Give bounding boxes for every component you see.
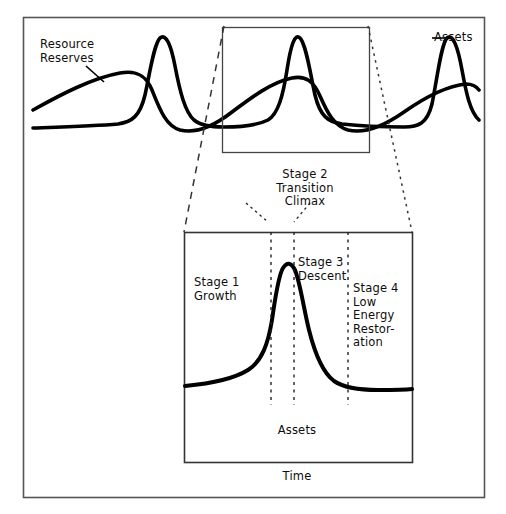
zoom-selection-box[interactable] — [223, 28, 370, 153]
stage2-label: Stage 2 Transition Climax — [246, 168, 364, 209]
resource-reserves-curve — [33, 72, 479, 131]
assets-label: Assets — [434, 31, 473, 45]
detail-assets-axis-label: Assets — [238, 424, 356, 438]
assets-curve — [33, 37, 479, 128]
detail-time-axis-label: Time — [238, 470, 356, 484]
stage4-label: Stage 4 Low Energy Restor- ation — [353, 282, 399, 350]
stage3-label: Stage 3 Descent — [298, 256, 347, 283]
projection-line-left — [184, 26, 224, 232]
figure-canvas: Resource Reserves Assets Stage 2 Transit… — [0, 0, 506, 514]
stage1-label: Stage 1 Growth — [194, 276, 240, 303]
resource-reserves-label: Resource Reserves — [40, 38, 94, 65]
